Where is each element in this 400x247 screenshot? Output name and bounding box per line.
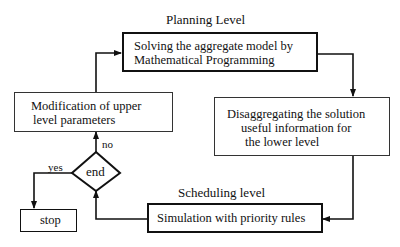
no-label: no: [102, 138, 113, 150]
simulation-label: Simulation with priority rules: [157, 211, 321, 225]
disaggregate-line-1: Disaggregating the solution: [227, 107, 389, 121]
disaggregate-line-3: the lower level: [227, 135, 389, 149]
yes-label: yes: [48, 161, 63, 173]
disaggregate-line-2: useful information for: [227, 121, 389, 135]
solve-line-2: Mathematical Programming: [134, 53, 316, 67]
solve-line-1: Solving the aggregate model by: [134, 39, 316, 53]
simulation-box: Simulation with priority rules: [147, 203, 323, 233]
scheduling-level-label: Scheduling level: [178, 185, 265, 201]
planning-level-label: Planning Level: [166, 12, 245, 28]
decision-label: end: [86, 164, 105, 180]
modification-box: Modification of upper level parameters: [14, 92, 173, 132]
modification-line-2: level parameters: [31, 113, 172, 127]
solve-aggregate-box: Solving the aggregate model by Mathemati…: [122, 32, 318, 72]
stop-label: stop: [40, 213, 76, 227]
stop-box: stop: [20, 209, 77, 232]
disaggregate-box: Disaggregating the solution useful infor…: [214, 97, 390, 156]
modification-line-1: Modification of upper: [31, 99, 172, 113]
